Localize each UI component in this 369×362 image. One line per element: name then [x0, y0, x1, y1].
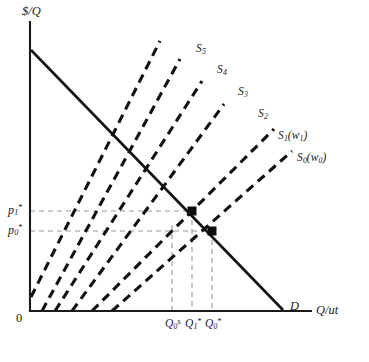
supply-shift-figure: $/Q Q/ut 0 D S5 S4 S3 S2 S1(w1) S0(w0) p… [0, 0, 369, 362]
supply-label-s0-base: S [297, 151, 303, 163]
supply-curve-s5 [31, 41, 160, 297]
quantity-label-q1-star: * [197, 317, 201, 326]
supply-label-s3: S3 [238, 86, 248, 99]
supply-label-s2-base: S [258, 107, 264, 119]
quantity-label-q0-star: * [217, 317, 221, 326]
quantity-label-q0s-sup: s [177, 317, 180, 326]
quantity-label-q0: Q0* [205, 318, 222, 331]
supply-label-s1-base: S [278, 129, 284, 141]
origin-label: 0 [16, 312, 22, 325]
supply-label-s0: S0(w0) [297, 152, 326, 165]
supply-label-s5-sub: 5 [202, 47, 206, 56]
equilibrium-marker-e1 [188, 207, 197, 216]
supply-label-s1: S1(w1) [278, 130, 307, 143]
axes-group [30, 22, 311, 311]
guide-lines [30, 211, 213, 312]
supply-label-s1-arg-close: ) [303, 129, 307, 141]
supply-label-s3-base: S [238, 85, 244, 97]
supply-curve-s1 [92, 129, 274, 311]
supply-label-s2-sub: 2 [264, 112, 268, 121]
quantity-label-q0s: Q0s [165, 318, 181, 331]
supply-label-s5: S5 [196, 43, 206, 56]
supply-label-s1-arg-open: (w [288, 129, 300, 141]
diagram-canvas [0, 0, 369, 362]
supply-label-s0-arg-close: ) [322, 151, 326, 163]
supply-label-s4-base: S [217, 63, 223, 75]
price-label-p1-star: * [18, 202, 22, 212]
supply-label-s3-sub: 3 [244, 90, 248, 99]
supply-curve-s4 [42, 59, 180, 311]
demand-curve-label: D [290, 300, 299, 313]
supply-curves [31, 41, 292, 311]
supply-label-s0-arg-open: (w [307, 151, 319, 163]
equilibrium-marker-e0 [208, 227, 217, 236]
y-axis-label: $/Q [22, 5, 41, 18]
x-axis-label: Q/ut [316, 304, 338, 317]
supply-label-s4: S4 [217, 64, 227, 77]
quantity-label-q1: Q1* [185, 318, 202, 331]
price-label-p1: p1* [8, 203, 23, 218]
supply-label-s5-base: S [196, 42, 202, 54]
supply-label-s4-sub: 4 [223, 68, 227, 77]
price-label-p0-star: * [18, 222, 22, 232]
supply-label-s2: S2 [258, 108, 268, 121]
price-label-p0: p0* [8, 223, 23, 238]
